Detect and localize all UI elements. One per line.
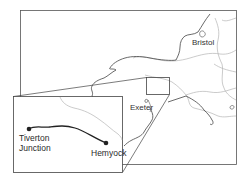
tiverton-junction-marker [27, 127, 32, 132]
hemyock-marker [104, 141, 109, 146]
exeter-label: Exeter [130, 103, 153, 112]
tiverton-label-line2: Junction [19, 143, 51, 153]
bristol-label: Bristol [192, 38, 214, 47]
tiverton-label-line1: Tiverton [19, 133, 49, 143]
hemyock-label: Hemyock [91, 148, 126, 158]
